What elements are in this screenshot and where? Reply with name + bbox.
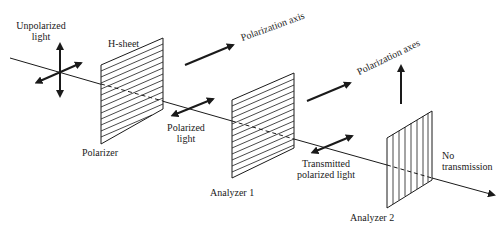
unpolarized-light-label: Unpolarized light [4,20,78,42]
label-line: light [4,31,78,42]
transmitted-polarized-light-label: Transmitted polarized light [284,158,368,180]
label-line: No [442,150,493,161]
label-line: light [158,133,214,144]
analyzer-2-sheet [387,111,432,208]
polarizer-sheet [101,38,163,144]
label-line: transmission [442,161,493,172]
analyzer-2-label: Analyzer 2 [350,212,394,223]
polarization-diagram: Unpolarized light H-sheet Polarizer Pola… [0,0,504,228]
analyzer-1-label: Analyzer 1 [210,187,254,198]
h-sheet-label: H-sheet [108,38,139,49]
label-line: polarized light [284,169,368,180]
unpolarized-light-arrows-icon [40,48,81,96]
polarization-axis-arrow-icon [185,45,233,65]
label-line: Unpolarized [4,20,78,31]
analyzer-1-axis-arrow-icon [307,83,350,101]
no-transmission-label: No transmission [442,150,493,172]
label-line: Transmitted [284,158,368,169]
label-line: Polarized [158,122,214,133]
polarized-light-label: Polarized light [158,122,214,144]
transmitted-light-arrow-icon [316,136,352,151]
polarizer-label: Polarizer [82,147,118,158]
